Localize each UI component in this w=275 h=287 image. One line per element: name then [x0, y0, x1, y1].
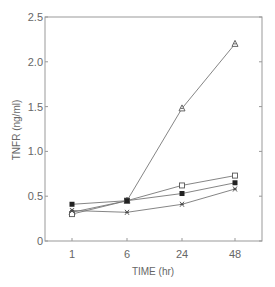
x-tick-label: 1	[69, 248, 75, 260]
series-line	[72, 189, 235, 212]
y-tick-label: 1.0	[28, 145, 43, 157]
series-cross	[70, 187, 237, 215]
x-axis-title: TIME (hr)	[132, 266, 174, 277]
cross-marker	[180, 202, 184, 207]
series-open-square	[70, 173, 238, 217]
open-square-marker	[180, 183, 185, 188]
line-chart: 00.51.01.52.02.5 162448 TIME (hr) TNFR (…	[0, 0, 275, 287]
series-line	[72, 44, 235, 212]
cross-marker	[233, 187, 237, 192]
x-tick-label: 24	[176, 248, 188, 260]
y-tick-label: 2.0	[28, 56, 43, 68]
filled-square-marker	[180, 191, 185, 196]
y-tick-label: 0	[37, 235, 43, 247]
open-square-marker	[233, 173, 238, 178]
filled-square-marker	[233, 180, 238, 185]
cross-marker	[125, 210, 129, 215]
filled-square-marker	[125, 198, 130, 203]
series-open-triangle	[69, 40, 238, 214]
x-tick-label: 6	[124, 248, 130, 260]
filled-square-marker	[70, 202, 75, 207]
y-tick-label: 0.5	[28, 190, 43, 202]
series-group	[69, 40, 238, 216]
triangle-marker	[232, 40, 238, 46]
y-axis: 00.51.01.52.02.5	[28, 11, 262, 247]
y-axis-title: TNFR (ng/ml)	[11, 100, 22, 161]
y-tick-label: 1.5	[28, 101, 43, 113]
y-tick-label: 2.5	[28, 11, 43, 23]
x-tick-label: 48	[229, 248, 241, 260]
